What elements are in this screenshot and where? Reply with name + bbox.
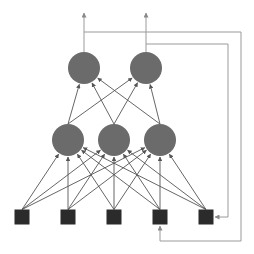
hidden-neuron <box>98 124 130 156</box>
edge-hidden-to-output <box>92 83 114 124</box>
edge-input-to-hidden <box>68 150 146 209</box>
input-unit <box>107 210 122 225</box>
context-unit <box>199 210 214 225</box>
hidden-neuron <box>144 124 176 156</box>
edge-input-to-hidden <box>68 154 105 209</box>
edge-hidden-to-output <box>68 84 79 124</box>
output-neuron <box>130 52 162 84</box>
hidden-neuron <box>52 124 84 156</box>
input-unit <box>15 210 30 225</box>
edge-input-to-hidden <box>22 150 100 209</box>
input-unit <box>153 210 168 225</box>
edge-input-to-hidden <box>114 154 151 209</box>
edge-input-to-hidden <box>22 154 59 209</box>
edge-hidden-to-output <box>68 78 132 124</box>
edge-input-to-hidden <box>83 148 206 210</box>
output-neuron <box>68 52 100 84</box>
edge-input-to-hidden <box>123 154 160 209</box>
input-unit <box>61 210 76 225</box>
edge-input-to-hidden <box>128 150 206 209</box>
edge-input-to-hidden <box>22 148 145 210</box>
edge-input-to-hidden <box>77 154 114 209</box>
neural-network-diagram <box>0 0 254 254</box>
edge-input-to-hidden <box>169 154 206 209</box>
edge-input-to-hidden <box>82 150 160 209</box>
